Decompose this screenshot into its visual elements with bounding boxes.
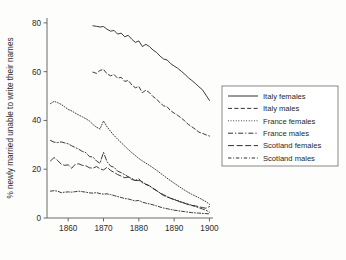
line-chart: 020406080 % newly married unable to writ… xyxy=(0,0,346,260)
y-axis-title: % newly married unable to write their na… xyxy=(6,37,15,198)
series-line-italy-females xyxy=(93,26,210,101)
legend-label-scotland-males: Scotland males xyxy=(263,154,315,163)
y-axis: 020406080 % newly married unable to writ… xyxy=(6,18,47,223)
x-tick-label: 1900 xyxy=(200,224,219,233)
chart-legend: Italy femalesItaly malesFrance femalesFr… xyxy=(222,86,338,166)
legend-label-france-males: France males xyxy=(263,129,309,138)
legend-label-france-females: France females xyxy=(263,117,316,126)
y-tick-label: 40 xyxy=(32,116,42,125)
series-lines xyxy=(51,26,210,214)
y-tick-label: 20 xyxy=(32,165,42,174)
x-tick-label: 1880 xyxy=(130,224,149,233)
y-tick-label: 0 xyxy=(36,214,41,223)
x-axis: 18601870188018901900 xyxy=(47,218,219,233)
legend-label-italy-males: Italy males xyxy=(263,104,299,113)
x-tick-label: 1870 xyxy=(94,224,113,233)
x-tick-label: 1890 xyxy=(165,224,184,233)
series-line-scotland-females xyxy=(51,158,210,209)
chart-figure: 020406080 % newly married unable to writ… xyxy=(0,0,346,260)
series-line-scotland-males xyxy=(51,191,210,214)
legend-label-italy-females: Italy females xyxy=(263,92,306,101)
x-tick-label: 1860 xyxy=(59,224,78,233)
y-tick-label: 80 xyxy=(32,19,42,28)
y-tick-label: 60 xyxy=(32,68,42,77)
legend-label-scotland-females: Scotland females xyxy=(263,141,321,150)
series-line-italy-males xyxy=(93,69,210,136)
series-line-france-females xyxy=(51,101,210,204)
